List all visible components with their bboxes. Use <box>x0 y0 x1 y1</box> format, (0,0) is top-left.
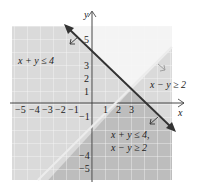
inequality-graph: y x −5 −4 −3 −2 −1 1 2 3 5 3 2 1 −1 −4 −… <box>0 0 206 190</box>
y-tick: 1 <box>84 86 89 97</box>
label-intersection-line2: x − y ≥ 2 <box>110 142 147 153</box>
x-tick: 1 <box>103 104 108 115</box>
x-tick: 2 <box>116 104 121 115</box>
label-intersection-line1: x + y ≤ 4, <box>110 129 150 140</box>
y-tick: −5 <box>79 163 90 174</box>
x-axis-label: x <box>177 107 183 118</box>
y-tick: 2 <box>84 73 89 84</box>
x-tick: −5 <box>15 104 26 115</box>
label-x-minus-y-ge-2: x − y ≥ 2 <box>149 79 186 90</box>
y-tick: 3 <box>84 60 89 71</box>
x-tick: −1 <box>68 104 79 115</box>
x-tick: 3 <box>129 104 134 115</box>
y-tick: −1 <box>79 111 90 122</box>
grid-lines <box>0 0 206 190</box>
label-x-plus-y-le-4: x + y ≤ 4 <box>17 55 54 66</box>
x-tick: −2 <box>55 104 66 115</box>
x-tick: −4 <box>29 104 40 115</box>
x-tick: −3 <box>42 104 53 115</box>
y-tick: −4 <box>79 150 90 161</box>
y-tick: 5 <box>84 34 89 45</box>
y-axis-label: y <box>83 9 89 20</box>
